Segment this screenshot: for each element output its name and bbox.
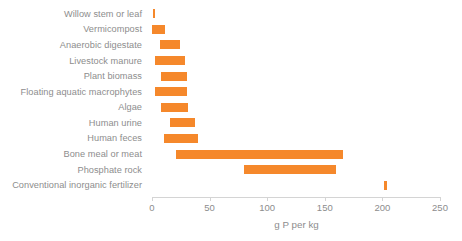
axis-tick xyxy=(210,197,211,201)
plot-area xyxy=(152,0,440,197)
range-bar xyxy=(176,150,343,159)
axis-tick-label: 250 xyxy=(420,202,460,213)
category-label: Conventional inorganic fertilizer xyxy=(12,177,142,193)
range-bar xyxy=(161,72,186,81)
range-bar xyxy=(244,165,336,174)
range-bar xyxy=(160,40,180,49)
category-label: Human feces xyxy=(87,130,142,146)
axis-tick-label: 50 xyxy=(190,202,230,213)
axis-tick xyxy=(152,197,153,201)
phosphorus-content-range-chart: Willow stem or leafVermicompostAnaerobic… xyxy=(0,0,462,241)
x-axis-title: g P per kg xyxy=(152,219,441,230)
category-label: Anaerobic digestate xyxy=(60,37,142,53)
range-bar xyxy=(153,9,156,18)
axis-tick-label: 0 xyxy=(132,202,172,213)
category-label: Plant biomass xyxy=(84,68,142,84)
range-bar xyxy=(155,56,185,65)
range-bar xyxy=(152,25,165,34)
axis-tick-label: 100 xyxy=(247,202,287,213)
value-axis-line xyxy=(152,197,441,198)
axis-tick xyxy=(382,197,383,201)
category-label: Algae xyxy=(118,99,142,115)
category-label: Phosphate rock xyxy=(77,162,142,178)
range-bar xyxy=(155,87,186,96)
axis-tick xyxy=(267,197,268,201)
category-label: Human urine xyxy=(89,115,142,131)
category-label: Bone meal or meat xyxy=(64,146,142,162)
axis-tick xyxy=(325,197,326,201)
axis-tick-label: 200 xyxy=(362,202,402,213)
range-bar xyxy=(384,181,387,190)
range-bar xyxy=(164,134,199,143)
category-label: Floating aquatic macrophytes xyxy=(21,84,142,100)
axis-tick xyxy=(440,197,441,201)
category-axis: Willow stem or leafVermicompostAnaerobic… xyxy=(0,0,148,197)
category-label: Willow stem or leaf xyxy=(64,6,142,22)
axis-tick-label: 150 xyxy=(305,202,345,213)
range-bar xyxy=(170,118,194,127)
category-label: Vermicompost xyxy=(83,21,142,37)
range-bar xyxy=(161,103,187,112)
category-label: Livestock manure xyxy=(69,53,142,69)
